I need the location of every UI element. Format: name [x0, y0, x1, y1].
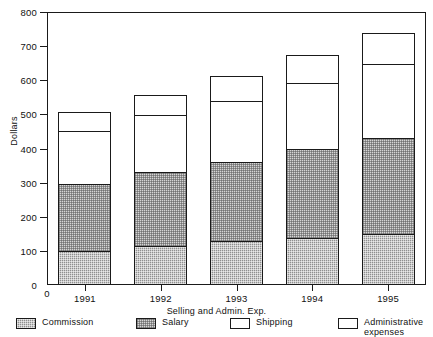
bar-segment-shipping-1995[interactable] [362, 64, 415, 140]
bar-segment-commission-1995[interactable] [362, 234, 415, 285]
legend-item-salary: Salary [136, 317, 189, 329]
bar-segment-salary-1994[interactable] [286, 149, 339, 239]
y-tick-mark [40, 183, 47, 184]
y-tick-mark [40, 12, 47, 13]
bar-segment-shipping-1994[interactable] [286, 83, 339, 151]
bar-segment-shipping-1992[interactable] [134, 115, 187, 174]
stacked-bar-chart: Dollars 01002003004005006007008001991199… [0, 0, 433, 337]
y-tick-label: 400 [21, 143, 37, 154]
bar-segment-salary-1995[interactable] [362, 138, 415, 235]
x-axis-title: Selling and Admin. Exp. [0, 306, 433, 316]
bar-segment-admin-1994[interactable] [286, 55, 339, 84]
bar-segment-salary-1993[interactable] [210, 162, 263, 242]
y-tick-mark [40, 217, 47, 218]
x-tick-label-1994: 1994 [301, 293, 323, 304]
bar-segment-salary-1992[interactable] [134, 172, 187, 247]
bar-1993[interactable] [210, 72, 263, 285]
x-tick-label-1991: 1991 [74, 293, 96, 304]
y-tick-label: 500 [21, 109, 37, 120]
y-tick-mark [40, 149, 47, 150]
legend-label-salary: Salary [162, 317, 189, 327]
bar-segment-salary-1991[interactable] [58, 184, 111, 252]
bar-segment-commission-1993[interactable] [210, 241, 263, 285]
bar-segment-admin-1992[interactable] [134, 95, 187, 116]
x-tick-mark-1992 [161, 285, 162, 291]
bar-segment-commission-1991[interactable] [58, 251, 111, 285]
legend-swatch-administrative-expenses [338, 318, 358, 329]
x-tick-label-1993: 1993 [226, 293, 248, 304]
legend-swatch-commission [16, 318, 36, 329]
y-tick-label: 100 [21, 245, 37, 256]
x-tick-mark-1994 [312, 285, 313, 291]
bar-segment-commission-1992[interactable] [134, 246, 187, 285]
x-tick-label-1992: 1992 [150, 293, 172, 304]
bar-1992[interactable] [134, 91, 187, 286]
bar-segment-shipping-1993[interactable] [210, 100, 263, 163]
y-tick-label: 300 [21, 177, 37, 188]
y-tick-label: 600 [21, 75, 37, 86]
legend-item-commission: Commission [16, 317, 94, 329]
bar-segment-admin-1995[interactable] [362, 33, 415, 65]
origin-label: 0 [44, 288, 49, 299]
legend-swatch-salary [136, 318, 156, 329]
y-tick-mark [40, 46, 47, 47]
x-tick-label-1995: 1995 [377, 293, 399, 304]
y-tick-label: 0 [32, 280, 37, 291]
y-tick-mark [40, 251, 47, 252]
bar-segment-commission-1994[interactable] [286, 238, 339, 285]
bar-1991[interactable] [58, 108, 111, 285]
x-tick-mark-1993 [237, 285, 238, 291]
x-tick-mark-1995 [388, 285, 389, 291]
y-tick-label: 700 [21, 41, 37, 52]
plot-area: 0100200300400500600700800199119921993199… [47, 12, 426, 285]
legend-label-commission: Commission [42, 317, 94, 327]
bar-segment-admin-1991[interactable] [58, 112, 111, 132]
legend-item-administrative-expenses: Administrative expenses [338, 317, 423, 337]
legend-item-shipping: Shipping [230, 317, 293, 329]
chart-legend: Commission Salary Shipping Administrativ… [8, 317, 429, 335]
legend-label-shipping: Shipping [256, 317, 293, 327]
y-tick-mark [40, 114, 47, 115]
bar-segment-admin-1993[interactable] [210, 76, 263, 102]
y-tick-label: 200 [21, 211, 37, 222]
legend-label-administrative-expenses: Administrative expenses [364, 317, 423, 337]
x-tick-mark-1991 [85, 285, 86, 291]
legend-swatch-shipping [230, 318, 250, 329]
bar-1994[interactable] [286, 51, 339, 285]
bar-segment-shipping-1991[interactable] [58, 131, 111, 186]
bar-1995[interactable] [362, 29, 415, 285]
y-axis-title: Dollars [9, 101, 19, 161]
y-tick-label: 800 [21, 7, 37, 18]
y-tick-mark [40, 80, 47, 81]
